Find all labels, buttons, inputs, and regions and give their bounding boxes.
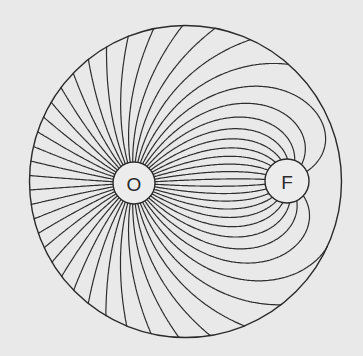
field-line: [62, 198, 119, 277]
field-line: [155, 187, 267, 194]
field-line: [155, 184, 265, 186]
field-line: [154, 164, 269, 177]
field-line: [52, 196, 118, 262]
field-line: [34, 189, 114, 219]
field-line: [121, 203, 128, 326]
field-line: [107, 47, 126, 164]
field-line: [135, 28, 215, 162]
sink-node: F: [265, 159, 309, 203]
field-line: [147, 200, 297, 249]
field-line: [147, 117, 295, 166]
field-line: [129, 204, 152, 334]
field-line: [51, 102, 117, 170]
field-line: [140, 64, 288, 164]
field-line: [155, 172, 267, 180]
sink-label: F: [281, 172, 293, 193]
field-line: [121, 36, 129, 163]
field-line: [140, 203, 281, 305]
source-node: O: [113, 162, 155, 204]
field-line: [155, 179, 265, 182]
field-line: [88, 201, 123, 304]
field-line: [154, 189, 269, 201]
field-line-diagram: O F: [0, 0, 363, 356]
field-line: [61, 87, 119, 168]
field-line: [34, 146, 115, 176]
source-label: O: [127, 174, 142, 195]
